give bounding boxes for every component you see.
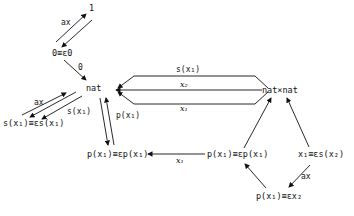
label-x2-mid: x₂: [180, 80, 188, 90]
label-zero: 0: [78, 63, 83, 73]
node-p-eq-x2: p(x₁)≡εx₂: [256, 191, 302, 201]
node-one: 1: [89, 3, 94, 13]
node-nat-x-nat: nat×nat: [262, 85, 298, 95]
label-p-left: p(x₁): [116, 111, 140, 121]
edge-px2-to-peq-right: [245, 164, 266, 188]
label-x1-lower: x₁: [176, 156, 184, 166]
edge-x1-bottom: [118, 92, 268, 104]
edge-ax-left: [22, 93, 66, 115]
label-s-left: s(x₁): [67, 107, 91, 117]
edge-x1eq-to-natxnat: [287, 98, 309, 147]
edge-s-top: [118, 76, 268, 88]
label-ax-bottom: ax: [301, 172, 311, 182]
label-ax-left: ax: [34, 98, 44, 108]
label-x1-bottom: x₁: [180, 104, 188, 114]
label-s-top: s(x₁): [176, 65, 200, 75]
diagram-edges: [0, 0, 354, 216]
node-x1-eq-s: x₁≡εs(x₂): [298, 149, 344, 159]
node-p-eq-left: p(x₁)≡εp(x₁): [87, 149, 148, 159]
node-p-eq-right: p(x₁)≡εp(x₁): [207, 149, 268, 159]
node-nat: nat: [86, 83, 101, 93]
label-ax-top: ax: [61, 18, 71, 28]
edge-peq-right-to-natxnat: [244, 98, 271, 148]
node-zero-eq: 0≡ε0: [52, 48, 72, 58]
node-s-eq: s(x₁)≡εs(x₁): [3, 118, 64, 128]
